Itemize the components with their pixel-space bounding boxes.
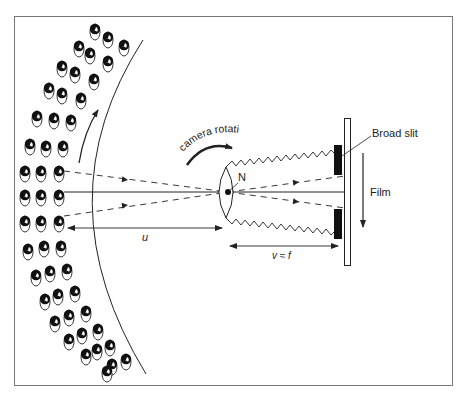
bellows-top (226, 150, 335, 167)
crowd-motion-arrow (79, 110, 98, 163)
film-label: Film (370, 186, 391, 198)
image-distance-label: v ≈ f (272, 250, 291, 261)
camera-rotation-arrow (187, 146, 232, 165)
crowd-icon (20, 24, 131, 382)
object-distance-label: u (142, 231, 148, 243)
film-plate (345, 119, 351, 266)
panoramic-camera-diagram: camera rotation (0, 0, 467, 399)
broad-slit-label: Broad slit (372, 127, 418, 139)
camera-rotation-label: camera rotation (0, 0, 240, 153)
slit-block-bottom (334, 209, 342, 239)
bellows-bottom (226, 218, 335, 235)
nodal-point-label: N (238, 171, 246, 183)
light-rays (64, 171, 345, 216)
crowd-arc (92, 40, 146, 374)
slit-block-top (334, 145, 342, 175)
